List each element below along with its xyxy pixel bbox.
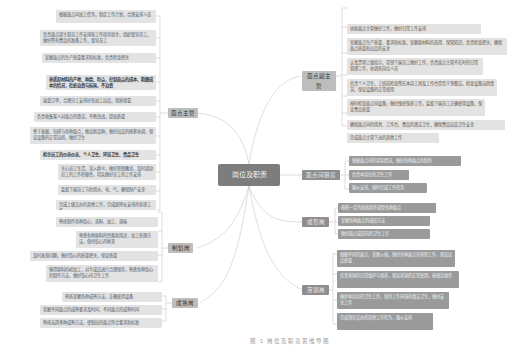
filling-item-1: 熟练制作各种馅心，选料、加工、调味 <box>56 217 158 227</box>
head-item-9: 关心员工生活，深入群众，做好思想教育，及时调动员工的工作积极性，切实做好员工的工… <box>58 164 156 180</box>
branch-steaming[interactable]: 蒸锅岗 <box>302 285 329 295</box>
deputy-item-6: 确保面点间的用具、工作台、食品的清洁卫生，确保食品出品卫生安全 <box>347 120 505 130</box>
deputy-item-2: 掌握面点生产质量、要求和标准，掌握原材料的选用、保管知识，负责检查把关，确保面点… <box>347 38 507 55</box>
steaming-item-1: 根据不同的面点，掌握火候，做好各种面点的蒸制工作，保证出品质量 <box>337 250 455 267</box>
steaming-item-2: 负责蒸锅的日常维护与保养，保证蒸锅的正常使用，按规定操作 <box>337 271 459 288</box>
center-node[interactable]: 岗位及职责 <box>218 164 280 186</box>
cooking-item-3: 熟练运用多种成熟方法，使制出的面点符合要求和标准 <box>40 318 162 328</box>
head-item-4: 熟悉原材料的产地、种类、特点，控制面点的成本，精细成本的情况，杜绝浪费与损耗，不… <box>46 75 156 90</box>
head-item-10: 监督下属员工节约用水、电、气，确保财产安全 <box>58 185 156 195</box>
head-item-1: 根据面点间加工任务，制定工作计划，合理安排人员 <box>56 10 156 23</box>
forming-item-3: 做好面点成形岗的卫生工作 <box>338 229 430 239</box>
head-item-3: 掌握面点的生产质量要求和标准，负责检查把关 <box>42 53 156 63</box>
kitchen-item-3: 服从安排，按时完成工作任务 <box>349 183 427 193</box>
branch-cooking[interactable]: 成熟岗 <box>172 298 198 308</box>
deputy-item-5: 按时检查面点间设备，做好维修保养工作，监督下属员工正确使用设备，保证食品质量 <box>347 99 485 116</box>
head-item-8: 检查员工的仪容仪表、个人卫生、环境卫生、食品卫生 <box>40 150 156 160</box>
head-item-5: 接受订单，合理分工安排好各加工出品，保质保量 <box>40 96 156 106</box>
head-item-11: 完成上级交办的其他工作，完成厨师长安排的各项工作 <box>56 200 156 210</box>
forming-item-1: 按照一定的规格制作成型各种面点 <box>338 203 436 213</box>
mind-map: 岗位及职责 面点主管 根据面点间加工任务，制定工作计划，合理安排人员 负责面点部… <box>0 0 523 349</box>
deputy-item-7: 完成面点主管下达的其他工作 <box>347 133 439 143</box>
filling-item-4: 懂得原料的初加工，对半成品进行合理保存，熟悉各种馅心的制作方法，做好馅心间卫生工… <box>46 265 158 282</box>
forming-item-2: 掌握各种面点的成形方法 <box>338 216 430 226</box>
branch-filling[interactable]: 制馅岗 <box>168 243 193 253</box>
cooking-item-1: 熟练掌握各种成熟方法，正确使用设备 <box>62 292 162 302</box>
branch-deputy-chef[interactable]: 面点副主管 <box>302 71 336 91</box>
kitchen-item-2: 负责本岗位的卫生工作 <box>349 170 409 180</box>
head-item-7: 善于发掘、钻研与各种面点，推出新品种，做好出品的统筹协调，保证设备的正常运转，做… <box>30 127 156 144</box>
cooking-item-2: 掌握不同面点的成熟要求及时间，不同面点的成熟时间 <box>40 305 162 315</box>
deputy-item-4: 负责个人卫生，上班前检查所在本岗工具及工作台是否干净整洁，检查设备运转情况，保证… <box>347 79 497 96</box>
figure-caption: 图 1 岗位及职责思维导图 <box>220 337 360 345</box>
branch-forming[interactable]: 成形岗 <box>302 217 329 227</box>
branch-kitchen[interactable]: 面点间厨房 <box>302 170 340 180</box>
deputy-item-1: 协助面点主管做好工作，做好日常工作安排 <box>347 24 481 34</box>
branch-head-chef[interactable]: 面点主管 <box>168 108 198 118</box>
head-item-6: 负责收集客人对面点的意见，不断改进，提高质量 <box>34 112 156 122</box>
kitchen-item-1: 根据面点间的实际情况，做好各种面点的制作 <box>349 156 461 166</box>
head-item-2: 负责面点部主管员工作安排和工作指导指令，组织督导员工，做好所有食品的准备工作，督… <box>40 30 156 46</box>
deputy-item-3: 认真贯彻上级指示，带领下属员工做好工作，负责面点主管不在时的日常管理工作，协调各… <box>347 58 483 75</box>
steaming-item-4: 完成领导交办的其他工作任务，服从安排 <box>337 313 433 330</box>
filling-item-2: 熟悉各种原料的性能和用途，加工处理方法，保持馅心的鲜美 <box>76 231 158 248</box>
filling-item-3: 及时发现问题，做好馅心的质量把关，保证质量 <box>30 251 158 261</box>
steaming-item-3: 做好本岗位的卫生工作，保持工作环境的清洁卫生，做好安全工作 <box>337 292 449 309</box>
